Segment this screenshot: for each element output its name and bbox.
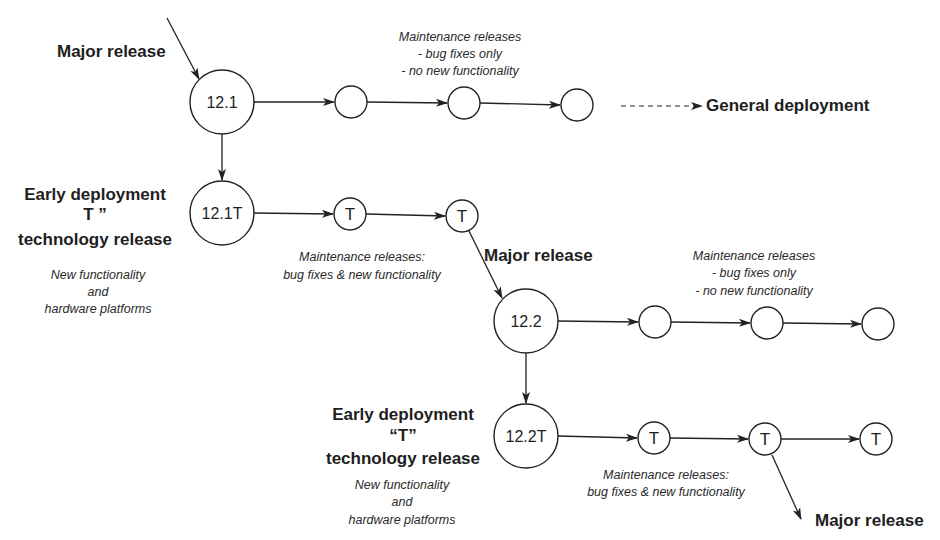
label-early-deployment-1: Early deployment T ” technology release [18,185,172,249]
edge-t2a-to-t2b [670,438,748,439]
svg-text:“T”: “T” [389,426,416,445]
node-maintenance-1b [448,87,480,119]
svg-text:T: T [345,205,355,224]
svg-text:- bug fixes only: - bug fixes only [418,47,503,61]
svg-text:hardware platforms: hardware platforms [349,513,456,527]
edge-t2b-major-out [772,455,801,519]
edge-t1a-to-t1b [366,214,445,216]
node-12-1: 12.1 [190,70,254,134]
edge-12-2T-to-t2a [558,436,637,438]
node-label: 12.2 [510,313,541,330]
svg-text:bug fixes & new functionality: bug fixes & new functionality [283,268,441,282]
node-maintenance-2b [751,307,783,339]
svg-text:Maintenance releases:: Maintenance releases: [299,250,425,264]
release-diagram: 12.1 12.1T T T 12.2 12.2T T T T Major re… [0,0,940,540]
node-12-2: 12.2 [494,289,558,353]
label-maintenance-bugfix-2: Maintenance releases - bug fixes only - … [693,249,815,298]
svg-text:T: T [760,430,770,449]
svg-text:Early deployment: Early deployment [332,405,474,424]
edge-12-1T-to-t1a [254,213,333,214]
node-tech-maint-1a: T [334,198,366,230]
node-maintenance-2c [862,308,894,340]
svg-text:Maintenance releases:: Maintenance releases: [603,468,729,482]
label-major-release-2: Major release [484,246,593,265]
svg-text:hardware platforms: hardware platforms [45,302,152,316]
node-12-2T: 12.2T [494,404,558,468]
svg-text:Maintenance releases: Maintenance releases [399,30,521,44]
svg-text:- no new functionality: - no new functionality [695,284,813,298]
svg-text:New functionality: New functionality [51,268,146,282]
label-maintenance-bugfix-1: Maintenance releases - bug fixes only [399,30,521,61]
node-maintenance-2a [639,306,671,338]
node-tech-maint-2c: T [860,423,892,455]
label-new-functionality-2: New functionality and hardware platforms [349,478,456,527]
label-maintenance-tech-2: Maintenance releases: bug fixes & new fu… [587,468,745,499]
svg-text:Early deployment: Early deployment [24,185,166,204]
svg-text:Maintenance releases: Maintenance releases [693,249,815,263]
node-label: 12.1 [206,94,237,111]
node-12-1T: 12.1T [190,181,254,245]
node-label: 12.1T [202,205,243,222]
svg-text:technology release: technology release [18,230,172,249]
svg-text:and: and [88,285,110,299]
svg-text:T: T [649,429,659,448]
svg-text:- bug fixes only: - bug fixes only [712,266,797,280]
edge-m1b-to-m1c [480,103,560,105]
svg-text:technology release: technology release [326,449,480,468]
label-major-release-3: Major release [815,511,924,530]
label-maintenance-tech-1: Maintenance releases: bug fixes & new fu… [283,250,441,282]
svg-text:T: T [871,430,881,449]
label-new-functionality-1: New functionality and hardware platforms [45,268,152,316]
label-early-deployment-2: Early deployment “T” technology release [326,405,480,468]
svg-text:bug fixes & new functionality: bug fixes & new functionality [587,485,745,499]
node-label: 12.2T [506,428,547,445]
node-maintenance-1c [561,89,593,121]
node-tech-maint-2a: T [638,422,670,454]
svg-text:T ”: T ” [83,205,107,224]
edge-12-2-to-m2a [558,321,638,322]
svg-text:T: T [457,207,467,226]
node-tech-maint-2b: T [749,423,781,455]
edge-m2b-to-m2c [783,323,861,324]
svg-text:and: and [392,495,414,509]
node-maintenance-1a [335,86,367,118]
edge-m1a-to-m1b [367,102,447,103]
node-tech-maint-1b: T [446,200,478,232]
edge-m2a-to-m2b [671,322,750,323]
edge-major-into-12-1 [167,18,199,79]
label-major-release-1: Major release [57,42,166,61]
label-general-deployment: General deployment [706,96,870,115]
label-maintenance-bugfix-1-line3: - no new functionality [401,64,519,78]
svg-text:New functionality: New functionality [355,478,450,492]
